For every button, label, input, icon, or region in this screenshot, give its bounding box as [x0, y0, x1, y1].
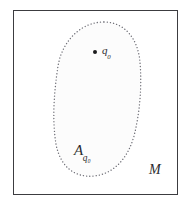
region-label-subscript: q₀	[83, 153, 91, 163]
figure-container: q0 Aq₀ M	[0, 0, 190, 207]
figure-canvas	[0, 0, 190, 207]
region-label: Aq₀	[74, 143, 91, 161]
marked-point-dot	[93, 50, 97, 54]
point-label-subscript: 0	[107, 53, 110, 60]
ambient-space-label: M	[149, 163, 161, 177]
region-label-base: A	[74, 142, 83, 158]
dotted-oval-region-path	[54, 22, 141, 176]
marked-point-label: q0	[102, 45, 111, 59]
